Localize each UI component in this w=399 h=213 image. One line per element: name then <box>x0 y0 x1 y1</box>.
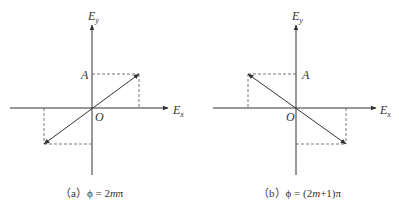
figure-a <box>10 25 168 175</box>
diagram-canvas <box>0 0 399 213</box>
amplitude-label-b: A <box>302 69 309 81</box>
y-axis-label-a: Ey <box>88 10 99 25</box>
polarization-vector-b <box>248 74 346 144</box>
origin-label-b: O <box>286 111 295 123</box>
caption-b: （b）ϕ = (2m+1)π <box>258 188 341 199</box>
amplitude-label-a: A <box>81 69 88 81</box>
x-axis-label-b: Ex <box>380 104 391 119</box>
figure-b <box>213 25 376 175</box>
caption-a: （a）ϕ = 2mπ <box>60 188 123 199</box>
x-axis-label-a: Ex <box>173 104 184 119</box>
y-axis-label-b: Ey <box>292 10 303 25</box>
origin-label-a: O <box>95 111 104 123</box>
